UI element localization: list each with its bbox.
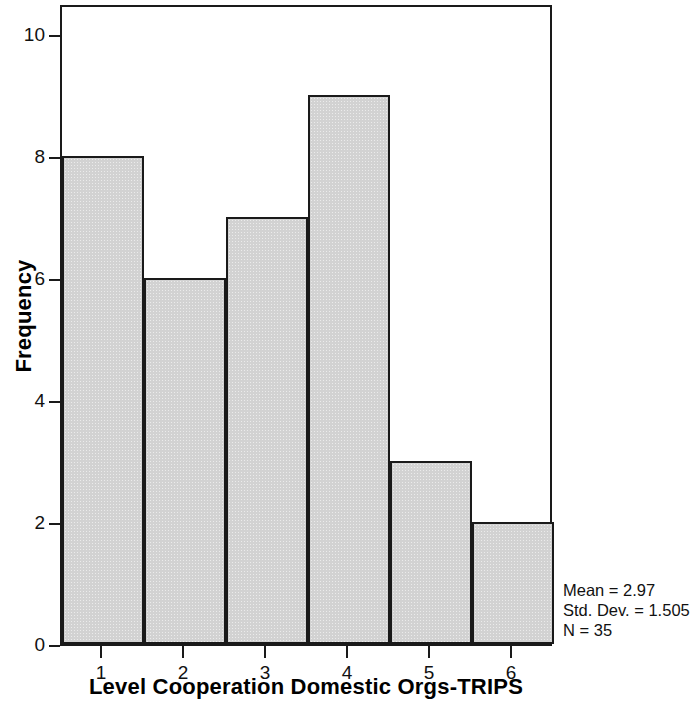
stat-mean: Mean = 2.97 [563, 580, 690, 600]
histogram-chart: Frequency 0246810 123456 Level Cooperati… [0, 0, 691, 713]
stat-n: N = 35 [563, 620, 690, 640]
x-tick-mark [428, 646, 430, 658]
x-axis-title: Level Cooperation Domestic Orgs-TRIPS [60, 674, 552, 700]
y-tick-label: 6 [34, 268, 45, 290]
histogram-bar [390, 461, 472, 644]
histogram-bar [472, 522, 554, 644]
histogram-bar [226, 217, 308, 644]
y-tick-mark [49, 401, 60, 403]
y-tick-mark [49, 35, 60, 37]
y-tick-mark [49, 157, 60, 159]
y-tick-label: 10 [24, 24, 45, 46]
y-tick-label: 8 [34, 146, 45, 168]
y-tick-label: 2 [34, 512, 45, 534]
y-tick-mark [49, 279, 60, 281]
y-tick-label: 4 [34, 390, 45, 412]
stat-std-dev: Std. Dev. = 1.505 [563, 600, 690, 620]
statistics-annotation: Mean = 2.97 Std. Dev. = 1.505 N = 35 [563, 580, 690, 640]
y-tick-mark [49, 523, 60, 525]
x-tick-mark [346, 646, 348, 658]
x-tick-mark [182, 646, 184, 658]
y-tick-label: 0 [34, 634, 45, 656]
y-tick-mark [49, 645, 60, 647]
bars-layer [62, 7, 550, 644]
x-tick-mark [100, 646, 102, 658]
plot-area [60, 5, 552, 646]
histogram-bar [62, 156, 144, 644]
histogram-bar [144, 278, 226, 644]
y-axis-title: Frequency [11, 196, 37, 436]
x-tick-mark [264, 646, 266, 658]
histogram-bar [308, 95, 390, 644]
x-tick-mark [510, 646, 512, 658]
